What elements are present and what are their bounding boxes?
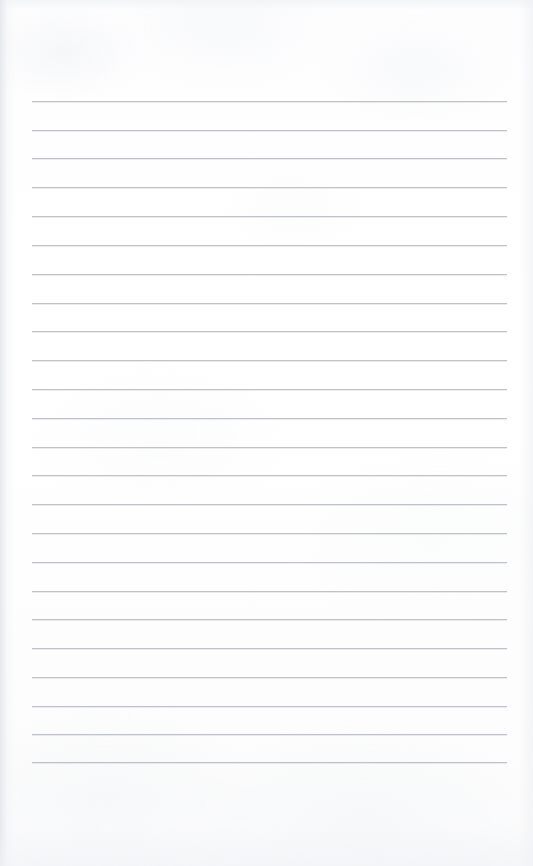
writing-line-row[interactable] (32, 162, 508, 190)
notepad-page (0, 0, 533, 866)
writing-line-row[interactable] (32, 652, 508, 680)
writing-line-row[interactable] (32, 508, 508, 536)
writing-line-row[interactable] (32, 681, 508, 709)
writing-line-row[interactable] (32, 594, 508, 622)
writing-line-row[interactable] (32, 76, 508, 104)
writing-line-row[interactable] (32, 709, 508, 737)
writing-line-row[interactable] (32, 335, 508, 363)
writing-line-row[interactable] (32, 278, 508, 306)
writing-line-row[interactable] (32, 105, 508, 133)
writing-line-row[interactable] (32, 306, 508, 334)
writing-line-row[interactable] (32, 422, 508, 450)
writing-line-row[interactable] (32, 220, 508, 248)
writing-line-row[interactable] (32, 191, 508, 219)
writing-line-row[interactable] (32, 133, 508, 161)
writing-line-row[interactable] (32, 479, 508, 507)
writing-line-row[interactable] (32, 623, 508, 651)
writing-line-row[interactable] (32, 537, 508, 565)
writing-line-row[interactable] (32, 393, 508, 421)
writing-line-row[interactable] (32, 249, 508, 277)
writing-line-row[interactable] (32, 566, 508, 594)
writing-line-row[interactable] (32, 737, 508, 765)
writing-line-row[interactable] (32, 450, 508, 478)
writing-line-row[interactable] (32, 364, 508, 392)
writing-rows-area (0, 0, 533, 866)
